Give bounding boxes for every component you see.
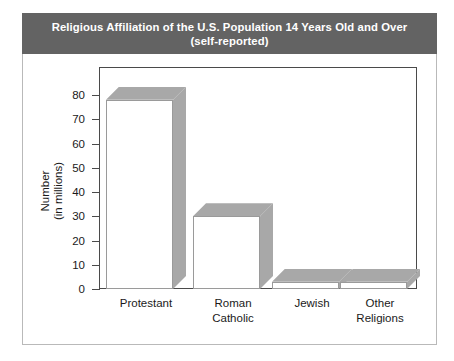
x-axis-label-line: Other — [325, 296, 435, 311]
bar-front-face — [193, 216, 260, 289]
bar-side-face — [173, 87, 186, 289]
chart-title: Religious Affiliation of the U.S. Popula… — [46, 20, 414, 48]
bar-front-face — [340, 282, 407, 289]
x-axis-category-label: OtherReligions — [325, 296, 435, 326]
chart-title-banner: Religious Affiliation of the U.S. Popula… — [22, 13, 437, 54]
x-axis-label-line: Catholic — [178, 311, 288, 326]
chart-title-line1: Religious Affiliation of the U.S. Popula… — [52, 21, 408, 33]
chart-figure: Religious Affiliation of the U.S. Popula… — [0, 0, 454, 361]
bar — [340, 269, 420, 289]
bar-side-face — [260, 203, 273, 289]
bar-top-face — [272, 269, 352, 282]
y-axis-tick — [92, 289, 100, 290]
bar-front-face — [106, 100, 173, 289]
bar-top-face — [106, 87, 186, 100]
y-axis-tick-label: 70 — [45, 113, 85, 125]
y-axis-tick-label: 30 — [45, 210, 85, 222]
y-axis-tick-label: 50 — [45, 162, 85, 174]
y-axis-tick-label: 40 — [45, 186, 85, 198]
bar-top-face — [340, 269, 420, 282]
bar-front-face — [272, 282, 339, 289]
bar — [193, 203, 273, 289]
bar — [106, 87, 186, 289]
y-axis-tick-label: 20 — [45, 235, 85, 247]
x-axis-label-line: Religions — [325, 311, 435, 326]
y-axis-tick-label: 0 — [45, 283, 85, 295]
y-axis-tick-label: 60 — [45, 138, 85, 150]
chart-subtitle: (self-reported) — [52, 34, 408, 48]
y-axis-tick-label: 80 — [45, 89, 85, 101]
y-axis-tick-label: 10 — [45, 259, 85, 271]
bar-top-face — [193, 203, 273, 216]
